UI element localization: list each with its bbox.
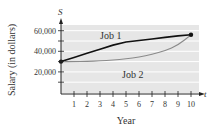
x-tick-label: 8	[163, 100, 167, 109]
y-axis-title: Salary (in dollars)	[6, 24, 18, 96]
x-axis-title: Year	[117, 115, 136, 126]
x-tick-label: 2	[85, 100, 89, 109]
y-tick-label: 60,000	[34, 27, 56, 36]
x-tick-label: 9	[176, 100, 180, 109]
x-tick-label: 10	[187, 100, 195, 109]
x-axis-variable: t	[204, 89, 207, 99]
end-point-marker	[189, 33, 193, 37]
y-tick-label: 40,000	[34, 47, 56, 56]
x-tick-label: 3	[98, 100, 102, 109]
y-tick-label: 20,000	[34, 68, 56, 77]
x-tick-label: 6	[137, 100, 141, 109]
series-label-job1: Job 1	[100, 30, 121, 41]
series-label-job2: Job 2	[122, 69, 143, 80]
x-tick-label: 7	[150, 100, 154, 109]
x-tick-label: 5	[124, 100, 128, 109]
x-tick-label: 4	[111, 100, 115, 109]
salary-chart: 1234567891020,00040,00060,000 S t Salary…	[0, 0, 214, 138]
x-tick-label: 1	[72, 100, 76, 109]
y-axis-arrow-icon	[59, 18, 63, 24]
y-axis-variable: S	[58, 7, 63, 17]
